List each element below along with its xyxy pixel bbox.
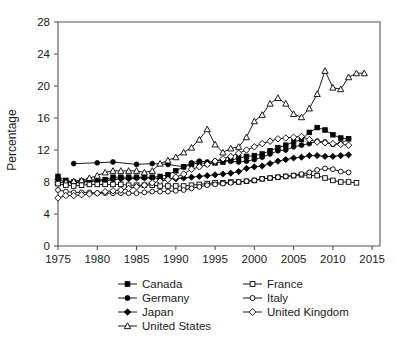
x-tick-label: 1975: [45, 253, 71, 265]
data-point-filled-circle: [125, 295, 130, 300]
data-point-open-circle: [291, 173, 296, 178]
data-point-filled-circle: [291, 144, 296, 149]
chart-figure: Percentage 0481216202428 197519801985199…: [0, 0, 397, 340]
data-point-open-square: [323, 176, 328, 181]
data-point-open-square: [103, 182, 108, 187]
data-point-open-circle: [56, 188, 61, 193]
data-point-open-square: [338, 180, 343, 185]
legend-item-label: Germany: [142, 292, 190, 304]
data-point-filled-circle: [189, 160, 194, 165]
y-tick-label: 12: [37, 144, 50, 156]
legend-item-label: United States: [142, 320, 211, 332]
data-point-filled-circle: [95, 160, 100, 165]
data-point-open-circle: [134, 191, 139, 196]
legend-item-label: United Kingdom: [267, 306, 349, 318]
data-point-open-circle: [244, 179, 249, 184]
data-point-open-circle: [315, 168, 320, 173]
data-point-open-square: [331, 178, 336, 183]
data-point-open-square: [56, 181, 61, 186]
data-point-open-circle: [338, 169, 343, 174]
data-point-open-square: [346, 180, 351, 185]
data-point-open-circle: [250, 295, 255, 300]
x-tick-label: 1980: [84, 253, 110, 265]
data-point-open-square: [87, 182, 92, 187]
chart-canvas: Percentage 0481216202428 197519801985199…: [0, 0, 397, 340]
data-point-open-circle: [158, 189, 163, 194]
y-tick-label: 8: [44, 176, 50, 188]
y-tick-label: 4: [44, 208, 51, 220]
data-point-open-circle: [299, 172, 304, 177]
x-tick-label: 2000: [242, 253, 268, 265]
data-point-open-circle: [283, 174, 288, 179]
data-point-open-square: [119, 182, 124, 187]
data-point-open-square: [174, 184, 179, 189]
data-point-filled-circle: [299, 143, 304, 148]
data-point-open-circle: [142, 190, 147, 195]
data-point-open-circle: [197, 184, 202, 189]
legend-item-label: Japan: [142, 306, 173, 318]
data-point-open-circle: [205, 183, 210, 188]
y-tick-label: 16: [37, 112, 50, 124]
data-point-open-circle: [330, 167, 335, 172]
data-point-open-square: [71, 184, 76, 189]
data-point-filled-circle: [252, 157, 257, 162]
data-point-filled-circle: [236, 160, 241, 165]
y-tick-label: 24: [37, 48, 50, 60]
data-point-filled-circle: [111, 160, 116, 165]
data-point-filled-circle: [71, 161, 76, 166]
y-tick-label: 20: [37, 80, 50, 92]
data-point-open-circle: [213, 182, 218, 187]
data-point-open-circle: [323, 166, 328, 171]
data-point-filled-square: [283, 143, 288, 148]
data-point-filled-square: [323, 128, 328, 133]
data-point-filled-circle: [244, 159, 249, 164]
data-point-open-square: [79, 183, 84, 188]
chart-background: [0, 0, 397, 340]
data-point-filled-circle: [268, 152, 273, 157]
data-point-filled-square: [338, 136, 343, 141]
data-point-filled-square: [125, 282, 130, 287]
x-tick-label: 2005: [281, 253, 307, 265]
data-point-filled-circle: [150, 161, 155, 166]
legend-item-label: Italy: [267, 292, 288, 304]
data-point-open-square: [166, 184, 171, 189]
y-axis-title-text: Percentage: [5, 109, 19, 171]
data-point-filled-square: [244, 154, 249, 159]
data-point-open-square: [250, 282, 255, 287]
data-point-open-square: [354, 181, 359, 186]
data-point-filled-square: [307, 130, 312, 135]
data-point-filled-square: [315, 125, 320, 130]
data-point-open-circle: [189, 186, 194, 191]
x-tick-label: 1985: [124, 253, 150, 265]
data-point-open-circle: [307, 170, 312, 175]
data-point-open-circle: [346, 170, 351, 175]
data-point-open-circle: [173, 188, 178, 193]
legend-item-label: France: [267, 278, 303, 290]
data-point-open-circle: [252, 178, 257, 183]
y-axis-title: Percentage: [5, 109, 19, 171]
data-point-filled-circle: [275, 148, 280, 153]
data-point-filled-circle: [134, 162, 139, 167]
data-point-open-circle: [221, 181, 226, 186]
data-point-open-circle: [166, 189, 171, 194]
data-point-filled-square: [331, 133, 336, 138]
data-point-open-circle: [181, 188, 186, 193]
data-point-open-circle: [260, 176, 265, 181]
data-point-filled-circle: [197, 159, 202, 164]
data-point-open-square: [64, 183, 69, 188]
data-point-filled-circle: [181, 164, 186, 169]
data-point-filled-circle: [260, 155, 265, 160]
x-tick-label: 1990: [163, 253, 189, 265]
data-point-open-circle: [228, 180, 233, 185]
x-tick-label: 2015: [359, 253, 385, 265]
x-tick-label: 2010: [320, 253, 346, 265]
data-point-open-square: [95, 182, 100, 187]
data-point-filled-square: [174, 169, 179, 174]
y-tick-label: 0: [44, 240, 50, 252]
data-point-filled-circle: [283, 148, 288, 153]
data-point-open-square: [111, 182, 116, 187]
data-point-open-circle: [236, 180, 241, 185]
data-point-open-circle: [150, 189, 155, 194]
data-point-open-circle: [275, 175, 280, 180]
data-point-open-square: [315, 173, 320, 178]
